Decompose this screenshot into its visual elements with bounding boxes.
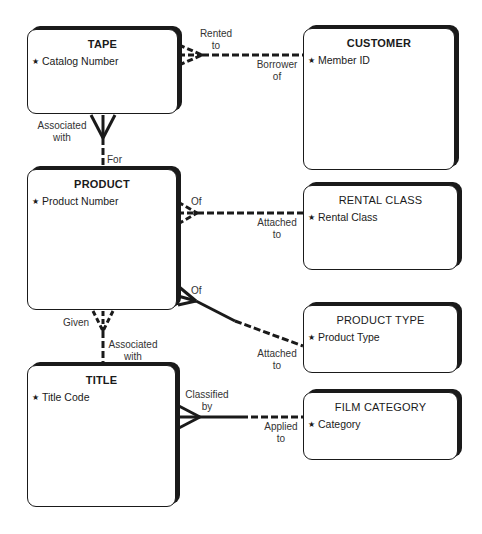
entity-title: CUSTOMER — [304, 37, 454, 49]
entity-title: PRODUCT TYPE — [304, 314, 457, 326]
attribute-label: Product Number — [42, 195, 118, 207]
label-line: Associated — [34, 120, 90, 132]
entity-title[interactable]: TITLE ★Title Code — [27, 365, 176, 507]
key-star-icon: ★ — [32, 57, 39, 66]
entity-film-category[interactable]: FILM CATEGORY ★Category — [303, 392, 458, 460]
rel-label-of-type: Of — [191, 285, 202, 297]
attribute-label: Member ID — [318, 54, 370, 66]
attribute-label: Title Code — [42, 391, 89, 403]
key-star-icon: ★ — [32, 393, 39, 402]
attribute-label: Product Type — [318, 331, 380, 343]
entity-product-type[interactable]: PRODUCT TYPE ★Product Type — [303, 305, 458, 373]
rel-label-for: For — [107, 154, 122, 166]
label-line: by — [182, 401, 232, 413]
label-line: Given — [63, 317, 89, 329]
key-star-icon: ★ — [32, 197, 39, 206]
entity-attribute: ★Product Number — [32, 195, 118, 207]
label-line: Of — [191, 285, 202, 297]
entity-attribute: ★Title Code — [32, 391, 89, 403]
entity-title: RENTAL CLASS — [304, 194, 457, 206]
attribute-label: Rental Class — [318, 211, 378, 223]
label-line: to — [253, 360, 301, 372]
entity-attribute: ★Member ID — [308, 54, 370, 66]
label-line: with — [106, 351, 160, 363]
entity-title: TAPE — [28, 38, 177, 50]
label-line: Borrower — [252, 59, 302, 71]
label-line: to — [190, 40, 242, 52]
entity-attribute: ★Catalog Number — [32, 55, 118, 67]
key-star-icon: ★ — [308, 420, 315, 429]
entity-tape[interactable]: TAPE ★Catalog Number — [27, 29, 178, 114]
rel-label-rented-to: Rented to — [190, 28, 242, 51]
attribute-label: Catalog Number — [42, 55, 118, 67]
entity-attribute: ★Product Type — [308, 331, 380, 343]
label-line: Classified — [182, 389, 232, 401]
entity-title: FILM CATEGORY — [304, 401, 457, 413]
rel-label-associated-with-title: Associated with — [106, 339, 160, 362]
label-line: Of — [191, 196, 202, 208]
entity-title: TITLE — [28, 374, 175, 386]
entity-attribute: ★Category — [308, 418, 361, 430]
label-line: of — [252, 71, 302, 83]
rel-label-attached-to-type: Attached to — [253, 348, 301, 371]
er-diagram: TAPE ★Catalog Number CUSTOMER ★Member ID… — [0, 0, 482, 534]
entity-title: PRODUCT — [28, 178, 176, 190]
entity-product[interactable]: PRODUCT ★Product Number — [27, 169, 177, 310]
label-line: Associated — [106, 339, 160, 351]
entity-customer[interactable]: CUSTOMER ★Member ID — [303, 28, 455, 170]
rel-label-of-rental: Of — [191, 196, 202, 208]
key-star-icon: ★ — [308, 213, 315, 222]
attribute-label: Category — [318, 418, 361, 430]
rel-label-given: Given — [63, 317, 89, 329]
label-line: Rented — [190, 28, 242, 40]
rel-label-attached-to-rental: Attached to — [253, 217, 301, 240]
entity-rental-class[interactable]: RENTAL CLASS ★Rental Class — [303, 185, 458, 270]
key-star-icon: ★ — [308, 333, 315, 342]
label-line: For — [107, 154, 122, 166]
label-line: with — [34, 132, 90, 144]
key-star-icon: ★ — [308, 56, 315, 65]
label-line: Attached — [253, 217, 301, 229]
entity-attribute: ★Rental Class — [308, 211, 378, 223]
rel-label-associated-with: Associated with — [34, 120, 90, 143]
rel-label-classified-by: Classified by — [182, 389, 232, 412]
label-line: Applied — [261, 421, 301, 433]
label-line: Attached — [253, 348, 301, 360]
rel-label-borrower-of: Borrower of — [252, 59, 302, 82]
label-line: to — [253, 229, 301, 241]
rel-label-applied-to: Applied to — [261, 421, 301, 444]
label-line: to — [261, 433, 301, 445]
